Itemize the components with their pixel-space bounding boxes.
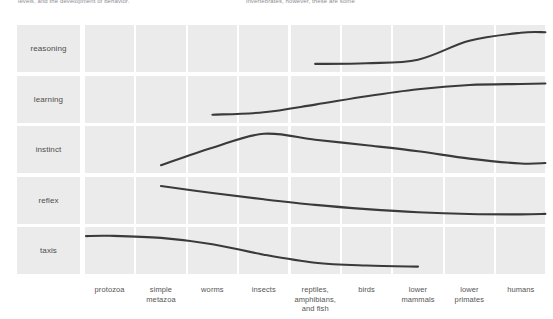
x-axis-labels: protozoasimplemetazoawormsinsectsreptile… [0,0,553,319]
x-axis-label-humans: humans [483,285,553,295]
x-axis-label-line: and fish [277,304,353,314]
x-axis-label-line: primates [431,295,507,305]
x-axis-label-line: metazoa [123,295,199,305]
x-axis-label-line: amphibians, [277,295,353,305]
x-axis-label-line: humans [483,285,553,295]
behavior-level-chart: levels, and the development of behavior.… [0,0,553,319]
